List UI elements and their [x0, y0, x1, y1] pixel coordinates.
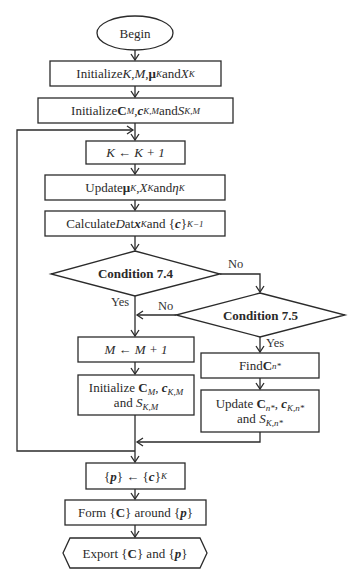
find-text: Find	[239, 358, 263, 373]
and: and	[237, 411, 259, 426]
and: and {	[147, 216, 175, 231]
around: } around {	[125, 505, 180, 520]
and: } and {	[137, 546, 175, 561]
sub: K,M	[142, 402, 158, 412]
c74-yes-label: Yes	[111, 295, 129, 310]
var-eta: η	[172, 180, 178, 195]
var-x: x	[134, 216, 141, 231]
init1-step: Initialize K, M, μK and XK	[50, 61, 221, 86]
update2-text: Update	[216, 396, 257, 411]
calc-step: Calculate D at xK and {c}K−1	[45, 211, 225, 236]
form-text: Form {	[78, 505, 116, 520]
incM-label: M ← M + 1	[105, 342, 168, 357]
init3-line2: and SK,M	[114, 395, 158, 410]
update2-line1: Update Cn*, cK,n*	[216, 396, 305, 411]
begin-label: Begin	[119, 26, 150, 41]
init2-step: Initialize CM, cK,M and SK,M	[38, 98, 233, 123]
find-step: Find Cn*	[201, 353, 319, 378]
var-M: M	[134, 66, 145, 81]
init3-step: Initialize CM, cK,M and SK,M	[78, 375, 194, 415]
and: and	[162, 66, 181, 81]
update-text: Update	[85, 180, 123, 195]
and: and	[153, 180, 172, 195]
var-X: X	[181, 66, 189, 81]
c74-no-label: No	[228, 257, 243, 272]
var-C: C	[117, 103, 126, 118]
sub: K,M	[167, 387, 183, 397]
incM-step: M ← M + 1	[78, 337, 194, 362]
update-step: Update μK, XK and ηK	[45, 175, 225, 200]
c75-no-label: No	[158, 299, 173, 314]
brace: }	[155, 469, 161, 484]
sub: K,n*	[287, 403, 304, 413]
init2-text: Initialize	[71, 103, 117, 118]
condition-7-5-label: Condition 7.5	[223, 308, 298, 323]
var-D: D	[115, 216, 124, 231]
assign-step: {p} ← {c}K	[86, 463, 185, 489]
arrow-assign: } ← {	[117, 469, 149, 484]
condition-7-5: Condition 7.5	[176, 293, 345, 337]
incK-label: K ← K + 1	[106, 145, 165, 160]
c75-yes-label: Yes	[266, 336, 284, 351]
at: at	[125, 216, 134, 231]
begin-terminal: Begin	[97, 16, 173, 50]
export-terminal: Export {C} and {p}	[63, 538, 207, 568]
brace: }	[181, 546, 187, 561]
condition-7-4: Condition 7.4	[51, 251, 220, 296]
var-C: C	[263, 358, 272, 373]
update2-line2: and SK,n*	[237, 411, 283, 426]
and: and	[159, 103, 178, 118]
var-C: C	[138, 380, 147, 395]
var-C: C	[127, 546, 136, 561]
condition-7-4-label: Condition 7.4	[98, 266, 173, 281]
brace: }	[187, 505, 193, 520]
calc-text: Calculate	[66, 216, 115, 231]
form-step: Form {C} around {p}	[65, 500, 206, 525]
var-C: C	[116, 505, 125, 520]
var-C: C	[256, 396, 265, 411]
init3-text: Initialize	[89, 380, 138, 395]
update2-step: Update Cn*, cK,n* and SK,n*	[201, 390, 319, 432]
and: and	[114, 395, 136, 410]
init1-text: Initialize	[76, 66, 122, 81]
sub: K,n*	[266, 418, 283, 428]
var-mu: μ	[149, 66, 156, 81]
export-text: Export {	[83, 546, 128, 561]
incK-step: K ← K + 1	[86, 141, 185, 164]
init3-line1: Initialize CM, cK,M	[89, 380, 183, 395]
var-K: K	[123, 66, 132, 81]
